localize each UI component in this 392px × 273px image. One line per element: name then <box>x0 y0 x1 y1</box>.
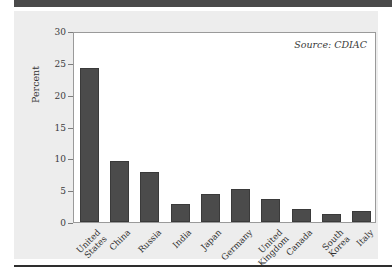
bar-series <box>74 33 375 222</box>
chart-figure: 051015202530 Percent Source: CDIAC Unite… <box>0 0 392 273</box>
bar <box>140 172 159 222</box>
bar <box>292 209 311 222</box>
y-tick-label: 20 <box>55 91 66 101</box>
y-tick-label: 5 <box>60 186 66 196</box>
bar <box>171 204 190 222</box>
bar <box>110 161 129 222</box>
bar <box>261 199 280 222</box>
y-tick-label: 15 <box>55 123 66 133</box>
bar <box>322 214 341 222</box>
plot-area: Source: CDIAC <box>73 32 376 223</box>
bar <box>201 194 220 222</box>
bar <box>352 211 371 222</box>
y-tick-label: 10 <box>55 154 66 164</box>
chart-panel: 051015202530 Percent Source: CDIAC Unite… <box>14 11 378 259</box>
y-axis-label: Percent <box>30 66 41 103</box>
bar <box>231 189 250 222</box>
bar <box>80 68 99 222</box>
y-axis: 051015202530 <box>14 11 73 259</box>
y-tick-label: 30 <box>55 27 66 37</box>
y-tick-label: 25 <box>55 59 66 69</box>
bottom-divider-rule <box>14 265 392 267</box>
top-divider-rule <box>14 0 392 7</box>
y-tick-label: 0 <box>60 218 66 228</box>
